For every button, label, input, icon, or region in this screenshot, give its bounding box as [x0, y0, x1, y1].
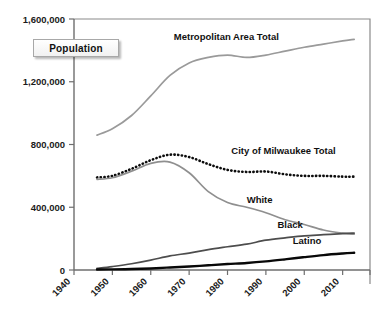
y-tick-label: 1,200,000: [23, 76, 65, 87]
x-tick-label: 1990: [242, 276, 265, 299]
series-label-latino: Latino: [293, 235, 322, 246]
y-tick-label: 0: [60, 265, 65, 276]
x-tick-label: 2000: [280, 276, 303, 299]
x-tick-label: 1980: [203, 276, 226, 299]
x-tick-label: 1950: [88, 276, 111, 299]
x-tick-label: 1960: [126, 276, 149, 299]
series-line-white: [97, 161, 354, 234]
series-line-latino: [97, 253, 354, 270]
series-label-city-of-milwaukee-total: City of Milwaukee Total: [231, 145, 335, 156]
x-tick-label: 1940: [50, 276, 73, 299]
y-tick-label: 1,600,000: [23, 14, 65, 25]
series-label-white: White: [247, 194, 273, 205]
series-line-city-of-milwaukee-total: [97, 155, 354, 178]
x-tick-label: 1970: [165, 276, 188, 299]
series-line-metropolitan-area-total: [97, 39, 354, 135]
y-tick-label: 800,000: [31, 139, 65, 150]
series-label-black: Black: [277, 219, 303, 230]
population-badge: Population: [33, 39, 119, 57]
y-tick-label: 400,000: [31, 202, 65, 213]
series-label-metropolitan-area-total: Metropolitan Area Total: [174, 31, 279, 42]
population-badge-label: Population: [49, 43, 103, 54]
x-tick-label: 2010: [318, 276, 341, 299]
population-chart: 0400,000800,0001,200,0001,600,0001940195…: [0, 0, 388, 322]
